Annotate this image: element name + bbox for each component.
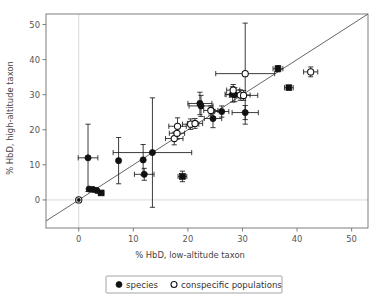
data-point-filled-circle [149,149,155,155]
x-tick-label: 0 [76,234,81,244]
data-point-open-circle [242,71,248,77]
data-point-filled-circle [210,115,216,121]
data-point-filled-circle [140,157,146,163]
data-point-open-circle [192,120,198,126]
y-tick-label: 10 [29,160,40,170]
x-tick-label: 40 [292,234,303,244]
y-tick-label: 0 [35,195,40,205]
data-point-open-circle [230,87,236,93]
x-tick-label: 10 [128,234,139,244]
data-point-filled-circle [198,103,204,109]
x-axis-label: % HbD, low-altitude taxon [135,250,245,260]
data-point-filled-circle [115,158,121,164]
data-point-filled-circle [85,155,91,161]
data-point-filled-circle [242,109,248,115]
data-point-filled-square [180,174,186,180]
data-point-open-circle [308,69,314,75]
legend-marker-conspecific-populations [171,282,177,288]
data-point-filled-circle [141,171,147,177]
scatter-plot-svg: 01020304050 01020304050 % HbD, low-altit… [0,0,381,302]
x-tick-label: 30 [237,234,248,244]
data-point-filled-circle [219,108,225,114]
data-point-open-circle [174,130,180,136]
data-point-open-circle [240,92,246,98]
data-point-filled-square [275,66,281,72]
y-tick-label: 40 [29,55,40,65]
legend-marker-species [116,282,122,288]
x-tick-label: 50 [346,234,357,244]
legend-label-conspecific-populations: conspecific populations [181,280,282,290]
data-point-filled-square [286,85,292,91]
x-tick-label: 20 [183,234,194,244]
chart-figure: 01020304050 01020304050 % HbD, low-altit… [0,0,381,302]
y-axis-label: % HbD, high-altitude taxon [5,61,15,175]
y-tick-label: 20 [29,125,40,135]
y-tick-label: 30 [29,90,40,100]
data-point-open-circle [174,123,180,129]
data-point-filled-square [98,190,104,196]
data-point-open-circle [208,107,214,113]
legend-label-species: species [126,280,159,290]
data-point-origin-core [77,198,80,201]
y-tick-label: 50 [29,20,40,30]
